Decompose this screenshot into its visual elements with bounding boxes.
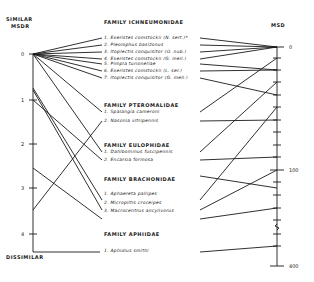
left-tick-4: 4 <box>21 231 24 237</box>
species-label: 2. Nasonia vitripennis <box>104 119 158 123</box>
right-axis-title: MSD <box>271 23 285 28</box>
species-label: 2. Pleolophus basizonus <box>104 43 164 47</box>
right-tick-100: 100 <box>289 167 299 173</box>
left-axis-title: SIMILAR <box>6 17 33 22</box>
right-tick-400: 400 <box>289 263 299 269</box>
species-label: 2. Microplitis croceipes <box>104 201 162 205</box>
family-heading: FAMILY ICHNEUMONIDAE <box>104 20 183 25</box>
species-label: 1. Spalangia cameroni <box>104 110 160 114</box>
left-tick-1: 1 <box>21 97 24 103</box>
left-tick-2: 2 <box>21 141 24 147</box>
species-label: 3. Itoplectis conquisitor (O. nub.) <box>104 50 187 54</box>
family-heading: FAMILY EULOPHIDAE <box>104 143 170 148</box>
family-heading: FAMILY APHIIDAE <box>104 232 160 237</box>
family-heading: FAMILY BRACHONIDAE <box>104 177 175 182</box>
left-axis-bottom-title: DISSIMILAR <box>6 255 44 260</box>
left-tick-0: 0 <box>21 51 24 57</box>
species-label: 1. Aphaereta pallipes <box>104 192 157 196</box>
left-tick-3: 3 <box>21 185 24 191</box>
species-label: 1. Exeristes comstockii (N. sert.)* <box>104 36 188 40</box>
species-label: 7. Itoplectis conquisitor (G. mell.) <box>104 76 188 80</box>
species-label: 3. Macrocentrus ancylivorus <box>104 209 174 213</box>
family-heading: FAMILY PTEROMALIDAE <box>104 103 179 108</box>
right-tick-0: 0 <box>289 44 292 50</box>
left-axis-subtitle: MSDR <box>11 24 30 29</box>
species-label: 2. Encarsia formosa <box>104 158 153 162</box>
species-label: 1. Dahlbominus fuscipennis <box>104 150 173 154</box>
species-label: 1. Aphidius smithi <box>104 249 149 253</box>
species-label: 5. Pimpla turionellae <box>104 62 156 66</box>
species-label: 6. Exeristes comstockii (L. ser.) <box>104 69 182 73</box>
